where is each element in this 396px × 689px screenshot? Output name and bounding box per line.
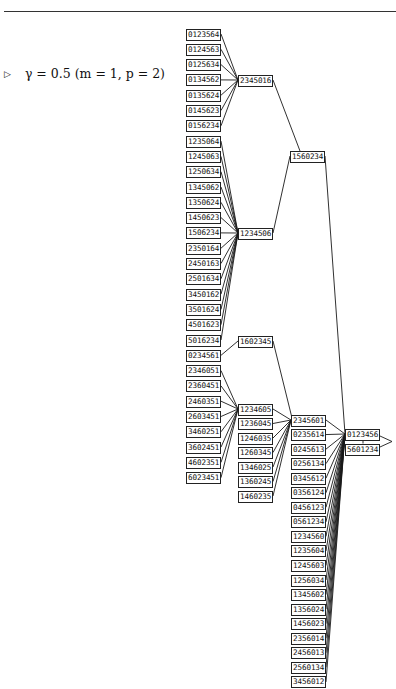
tree-node: 0125634 (186, 59, 221, 71)
tree-node: 6023451 (186, 472, 221, 484)
tree-node: 3460251 (186, 426, 221, 438)
tree-node: 0256134 (291, 458, 326, 470)
tree-node: 2360451 (186, 380, 221, 392)
tree-node: 0124563 (186, 44, 221, 56)
tree-node: 1350624 (186, 197, 221, 209)
tree-node: 2345016 (238, 75, 273, 87)
tree-edge (273, 420, 291, 496)
tree-node: 1256034 (291, 575, 326, 587)
tree-node: 0123456 (345, 429, 380, 441)
tree-node: 2603451 (186, 411, 221, 423)
tree-node: 1236045 (238, 418, 273, 430)
tree-edge (221, 409, 238, 478)
tree-node: 4602351 (186, 457, 221, 469)
tree-node: 1235064 (186, 136, 221, 148)
tree-node: 0561234 (291, 516, 326, 528)
tree-node: 0234561 (186, 350, 221, 362)
tree-node: 2501634 (186, 273, 221, 285)
tree-edge (221, 141, 238, 233)
tree-node: 1250634 (186, 166, 221, 178)
tree-node: 1450623 (186, 212, 221, 224)
tree-node: 0456123 (291, 502, 326, 514)
tree-node: 2346051 (186, 365, 221, 377)
tree-node: 0135624 (186, 90, 221, 102)
tree-node: 0245613 (291, 444, 326, 456)
tree-node: 1260345 (238, 447, 273, 459)
tree-node: 3456012 (291, 676, 326, 688)
tree-node: 2356014 (291, 633, 326, 645)
tree-edge (221, 341, 238, 355)
tree-edge (221, 172, 238, 233)
tree-edge (325, 156, 345, 434)
tree-node: 1346025 (238, 462, 273, 474)
tree-node: 1245603 (291, 560, 326, 572)
tree-edge (221, 409, 238, 462)
tree-node: 3501624 (186, 304, 221, 316)
tree-node: 1460235 (238, 491, 273, 503)
tree-node: 5016234 (186, 335, 221, 347)
tree-node: 1602345 (238, 336, 273, 348)
tree-edge (273, 80, 300, 151)
tree-edge (221, 80, 238, 111)
tree-node: 1235604 (291, 545, 326, 557)
tree-node: 2460351 (186, 396, 221, 408)
tree-edge (273, 409, 291, 420)
root-arrow-upper (380, 436, 392, 442)
tree-node: 2345601 (291, 415, 326, 427)
root-arrow-lower (380, 442, 392, 448)
tree-node: 3602451 (186, 442, 221, 454)
tree-node: 1245063 (186, 151, 221, 163)
tree-node: 1234560 (291, 531, 326, 543)
tree-node: 2450163 (186, 258, 221, 270)
tree-node: 0145623 (186, 105, 221, 117)
tree-node: 1456023 (291, 618, 326, 630)
tree-edge (326, 420, 345, 434)
tree-node: 1360245 (238, 476, 273, 488)
tree-edge (273, 420, 291, 453)
tree-node: 1345602 (291, 589, 326, 601)
tree-edge (221, 80, 238, 126)
tree-node: 1234506 (238, 228, 273, 240)
tree-node: 2560134 (291, 662, 326, 674)
tree-node: 1356024 (291, 604, 326, 616)
tree-node: 0123564 (186, 29, 221, 41)
tree-node: 0134562 (186, 74, 221, 86)
tree-node: 0345612 (291, 473, 326, 485)
tree-node: 4501623 (186, 319, 221, 331)
tree-node: 1246035 (238, 433, 273, 445)
tree-node: 1234605 (238, 404, 273, 416)
tree-edge (273, 156, 290, 233)
tree-node: 0235614 (291, 429, 326, 441)
tree-edge (326, 434, 345, 435)
tree-node: 1560234 (290, 151, 325, 163)
tree-node: 3450162 (186, 289, 221, 301)
tree-node: 1506234 (186, 227, 221, 239)
tree-node: 2456013 (291, 647, 326, 659)
tree-edge (221, 34, 238, 80)
tree-edge (273, 341, 292, 418)
tree-edge (221, 49, 238, 80)
tree-node: 0356124 (291, 487, 326, 499)
tree-node: 5601234 (345, 444, 380, 456)
tree-node: 1345062 (186, 182, 221, 194)
tree-node: 0156234 (186, 120, 221, 132)
tree-node: 2350164 (186, 243, 221, 255)
